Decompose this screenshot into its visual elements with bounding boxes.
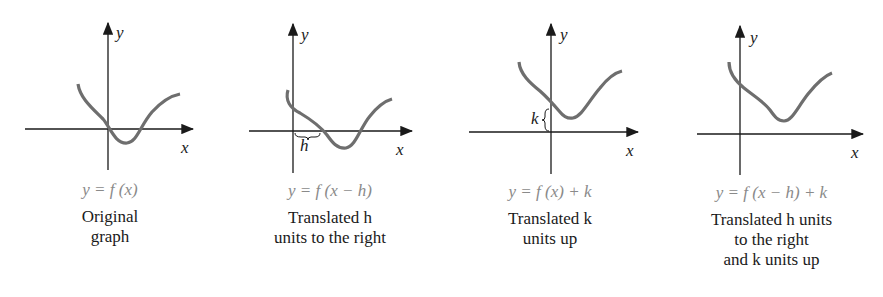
x-axis-label: x (180, 138, 189, 157)
y-axis-label: y (748, 28, 758, 47)
panel-shift-right: y x h y = f (x − h) Translated h units t… (220, 0, 440, 297)
panel-original: y x y = f (x) Original graph (0, 0, 220, 297)
k-brace (542, 109, 549, 131)
h-marker-label: h (300, 136, 309, 156)
caption: Translated k units up (440, 209, 660, 249)
y-axis-label: y (299, 25, 309, 44)
y-axis-label: y (558, 25, 568, 44)
caption: Translated h units to the right (220, 208, 440, 248)
graph-original: y x (0, 0, 220, 297)
equation: y = f (x) + k (440, 182, 660, 202)
caption: Translated h units to the right and k un… (660, 210, 883, 270)
y-axis-label: y (114, 23, 124, 42)
panel-shift-up: y x k y = f (x) + k Translated k units u… (440, 0, 660, 297)
k-marker-label: k (531, 109, 539, 129)
curve (729, 62, 832, 121)
equation: y = f (x − h) + k (660, 183, 883, 203)
graph-shift-right: y x (220, 0, 440, 297)
x-axis-label: x (625, 141, 634, 160)
caption: Original graph (0, 207, 220, 247)
equation: y = f (x) (0, 180, 220, 200)
x-axis-label: x (395, 140, 404, 159)
equation: y = f (x − h) (220, 181, 440, 201)
panel-shift-right-up: y x y = f (x − h) + k Translated h units… (660, 0, 883, 297)
graph-shift-up: y x (440, 0, 660, 297)
x-axis-label: x (850, 143, 859, 162)
curve (78, 84, 180, 143)
